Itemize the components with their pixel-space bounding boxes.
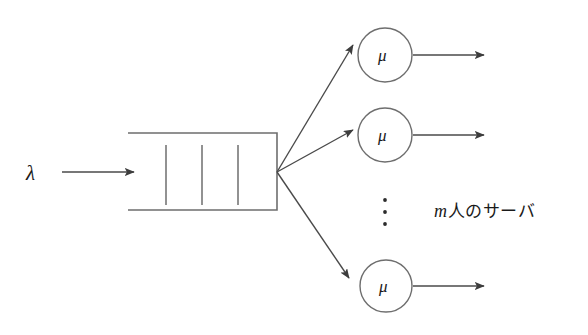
server-count-text: 人のサーバ [448,201,536,221]
service-rate-symbol-3: μ [379,278,388,295]
service-rate-symbol-1: μ [378,47,387,64]
server-count-variable: m [434,201,448,221]
server-count-annotation: m人のサーバ [434,202,535,220]
dispatch-arrow-server-2 [277,130,353,172]
dispatch-arrow-server-3 [277,172,349,278]
ellipsis-dot [383,198,387,202]
diagram-canvas [0,0,588,335]
queueing-diagram: λ μ μ μ m人のサーバ [0,0,588,335]
dispatch-arrow-server-1 [277,45,353,172]
ellipsis-dot [383,222,387,226]
ellipsis-dot [383,210,387,214]
service-rate-symbol-2: μ [378,127,387,144]
arrival-rate-symbol: λ [26,163,35,184]
